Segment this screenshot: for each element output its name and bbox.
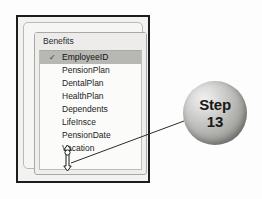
key-icon: ✓: [49, 51, 56, 64]
field-name: PensionPlan: [62, 65, 110, 75]
field-row-employeeid[interactable]: ✓ EmployeeID: [40, 51, 141, 64]
field-row-vacation[interactable]: Vacation: [40, 142, 141, 155]
window-inner-bevel: Benefits ✓ EmployeeID PensionPlan Dental…: [23, 22, 143, 169]
table-window-frame: Benefits ✓ EmployeeID PensionPlan Dental…: [16, 15, 150, 183]
field-list-title: Benefits: [35, 33, 146, 50]
field-row-healthplan[interactable]: HealthPlan: [40, 90, 141, 103]
field-list-panel[interactable]: Benefits ✓ EmployeeID PensionPlan Dental…: [34, 32, 147, 175]
step-callout-number: 13: [207, 114, 224, 129]
field-list-body[interactable]: ✓ EmployeeID PensionPlan DentalPlan Heal…: [39, 50, 142, 170]
field-name: DentalPlan: [62, 78, 104, 88]
field-name: LifeInsce: [62, 117, 96, 127]
figure-screenshot: Benefits ✓ EmployeeID PensionPlan Dental…: [0, 0, 262, 199]
step-callout-text: Step 13: [183, 81, 247, 145]
field-row-dentalplan[interactable]: DentalPlan: [40, 77, 141, 90]
field-name: HealthPlan: [62, 91, 104, 101]
field-row-lifeinsce[interactable]: LifeInsce: [40, 116, 141, 129]
field-name: Dependents: [62, 104, 108, 114]
field-name: EmployeeID: [62, 52, 108, 62]
vertical-resize-cursor-icon[interactable]: [61, 144, 74, 172]
field-row-dependents[interactable]: Dependents: [40, 103, 141, 116]
field-row-pensionplan[interactable]: PensionPlan: [40, 64, 141, 77]
field-row-pensiondate[interactable]: PensionDate: [40, 129, 141, 142]
step-callout-badge: Step 13: [183, 81, 247, 145]
step-callout-label: Step: [199, 97, 231, 112]
field-name: PensionDate: [62, 130, 111, 140]
